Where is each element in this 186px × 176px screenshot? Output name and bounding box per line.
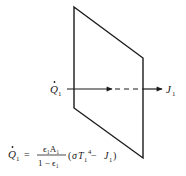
svg-text:1: 1 <box>172 90 176 98</box>
q-dot-label: Q 1 <box>50 81 62 98</box>
svg-text:1: 1 <box>16 155 20 163</box>
svg-text:1: 1 <box>109 156 112 163</box>
svg-text:=: = <box>24 149 30 160</box>
surface-parallelogram <box>74 7 143 158</box>
radiation-diagram: Q 1 J 1 Q 1 = ϵ₁A₁ 1 − ϵ₁ ( σ T 1 4 − J … <box>0 0 186 176</box>
svg-text:1: 1 <box>84 156 87 163</box>
fraction-denominator: 1 − ϵ₁ <box>38 158 59 168</box>
fraction-numerator: ϵ₁A₁ <box>43 144 59 154</box>
j-label: J 1 <box>166 83 176 98</box>
svg-text:Q: Q <box>50 83 58 95</box>
svg-text:): ) <box>113 150 116 162</box>
svg-text:−: − <box>91 150 97 161</box>
svg-text:Q: Q <box>8 148 16 160</box>
svg-text:1: 1 <box>58 90 62 98</box>
equation: Q 1 = ϵ₁A₁ 1 − ϵ₁ ( σ T 1 4 − J 1 ) <box>8 144 116 168</box>
